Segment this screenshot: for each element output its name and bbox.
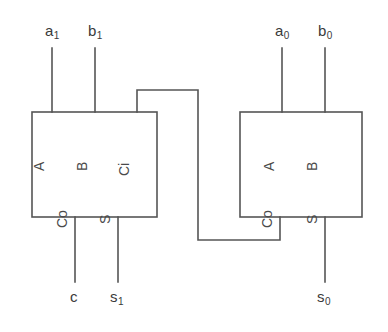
signal-label-b0: b0 [318,22,332,39]
pin-label-low-s: S [304,215,320,224]
signal-label-c: c [70,288,78,305]
signal-label-b1: b1 [88,22,102,39]
pin-label-high-a: A [31,162,47,171]
signal-label-a0: a0 [275,22,289,39]
pin-label-high-s: S [97,215,113,224]
pin-label-low-b: B [304,162,320,171]
pin-label-low-co: Co [259,210,275,228]
signal-label-s0: s0 [317,288,330,305]
signal-label-a1: a1 [45,22,59,39]
pin-label-high-b: B [74,162,90,171]
full-adder-low-body [240,112,362,217]
pin-label-high-ci: Ci [116,163,132,176]
circuit-schematic [0,0,388,332]
schematic-canvas: a1 b1 a0 b0 c s1 s0 A B Ci Co S A B Co S [0,0,388,332]
pin-label-high-co: Co [54,210,70,228]
pin-label-low-a: A [261,162,277,171]
signal-label-s1: s1 [110,288,123,305]
full-adder-high-body [32,112,157,217]
